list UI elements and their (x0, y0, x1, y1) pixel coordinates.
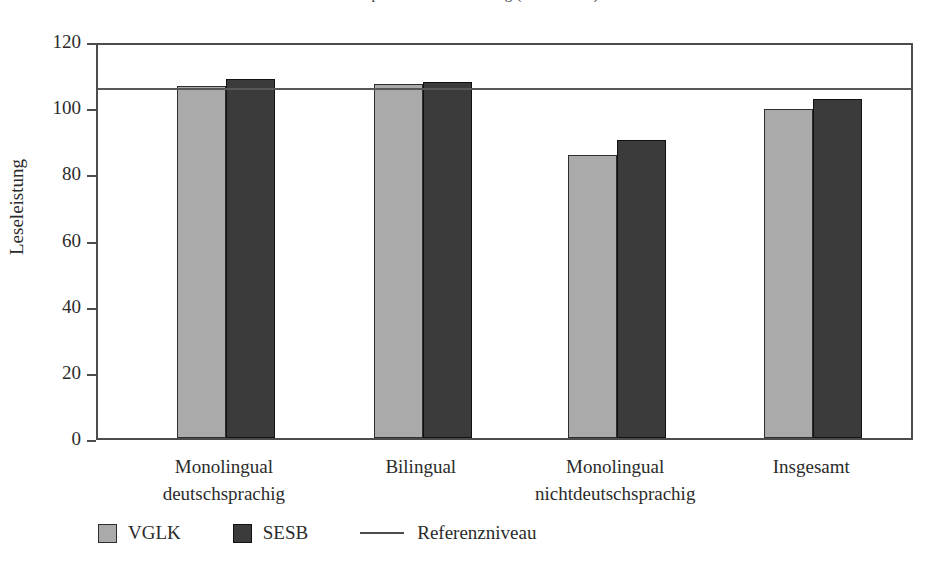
y-axis-tick-mark (87, 175, 96, 177)
bar-sesb-2 (423, 82, 472, 438)
y-axis-tick-40: 40 (0, 308, 96, 309)
y-axis-tick-120: 120 (0, 43, 96, 44)
chart-figure: Kompetenzstufenverteilung (Mittelwerte) … (0, 0, 940, 578)
x-axis-category-line: Insgesamt (661, 454, 940, 481)
bar-sesb-1 (226, 79, 275, 438)
reference-line (98, 88, 911, 90)
bar-sesb-4 (813, 99, 862, 438)
bar-vglk-2 (374, 84, 423, 438)
legend-swatch-vglk (98, 524, 117, 543)
legend-label-referenzniveau: Referenzniveau (417, 522, 536, 544)
y-axis-title: Leseleistung (6, 117, 28, 297)
y-axis-tick-mark (87, 308, 96, 310)
bar-vglk-3 (568, 155, 617, 438)
y-axis-tick-label: 0 (72, 428, 82, 450)
y-axis-tick-label: 20 (62, 362, 81, 384)
x-axis-category-4: Insgesamt (661, 454, 940, 481)
legend-item-vglk: VGLK (98, 522, 181, 544)
bar-vglk-1 (177, 86, 226, 438)
legend-item-referenzniveau: Referenzniveau (360, 522, 536, 544)
y-axis-tick-label: 100 (53, 97, 82, 119)
y-axis-tick-label: 80 (62, 163, 81, 185)
legend-label-sesb: SESB (263, 522, 308, 544)
chart-legend: VGLK SESB Referenzniveau (98, 520, 536, 546)
y-axis-tick-20: 20 (0, 374, 96, 375)
bar-sesb-3 (617, 140, 666, 438)
y-axis-tick-label: 60 (62, 230, 81, 252)
y-axis-tick-mark (87, 440, 96, 442)
y-axis-tick-mark (87, 242, 96, 244)
bars-layer (98, 45, 911, 438)
y-axis-tick-label: 120 (53, 31, 82, 53)
y-axis-tick-mark (87, 109, 96, 111)
chart-title-cropped: Kompetenzstufenverteilung (Mittelwerte) (0, 0, 940, 4)
legend-line-icon (360, 532, 404, 534)
y-axis-tick-mark (87, 374, 96, 376)
x-axis-category-line: nichtdeutschsprachig (465, 481, 765, 508)
y-axis-tick-mark (87, 43, 96, 45)
y-axis-tick-0: 0 (0, 440, 96, 441)
legend-item-sesb: SESB (233, 522, 308, 544)
legend-swatch-sesb (233, 524, 252, 543)
bar-vglk-4 (764, 109, 813, 438)
y-axis-tick-100: 100 (0, 109, 96, 110)
plot-area (96, 43, 913, 440)
x-axis-category-line: deutschsprachig (74, 481, 374, 508)
y-axis-tick-label: 40 (62, 296, 81, 318)
legend-label-vglk: VGLK (128, 522, 181, 544)
